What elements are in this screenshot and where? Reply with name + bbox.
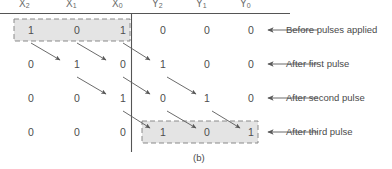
table-cell: 1 xyxy=(244,126,258,138)
table-cell: 1 xyxy=(70,58,84,70)
shift-register-figure: X2 X1 X0 Y2 Y1 Y0 xyxy=(0,0,392,169)
table-cell: 0 xyxy=(116,126,130,138)
table-cell: 1 xyxy=(156,58,170,70)
row-label-after-first-pulse: After first pulse xyxy=(286,58,349,69)
row-label-after-third-pulse: After third pulse xyxy=(286,126,353,137)
table-cell: 0 xyxy=(244,92,258,104)
table-cell: 0 xyxy=(70,126,84,138)
table-cell: 0 xyxy=(70,24,84,36)
table-cell: 0 xyxy=(70,92,84,104)
table-cell: 0 xyxy=(244,24,258,36)
table-cell: 0 xyxy=(156,24,170,36)
table-cell: 0 xyxy=(200,58,214,70)
row-label-before-pulses: Before pulses applied xyxy=(286,24,377,35)
table-cell: 0 xyxy=(200,126,214,138)
table-cell: 1 xyxy=(156,126,170,138)
table-cell: 1 xyxy=(116,24,130,36)
table-cell: 1 xyxy=(200,92,214,104)
table-cell: 0 xyxy=(244,58,258,70)
table-cell: 0 xyxy=(24,92,38,104)
table-cell: 1 xyxy=(24,24,38,36)
row-label-after-second-pulse: After second pulse xyxy=(286,92,365,103)
shift-arrows-pulse-1 xyxy=(31,43,150,60)
table-cell: 0 xyxy=(24,58,38,70)
shift-arrows-pulse-2 xyxy=(77,77,196,94)
table-cell: 0 xyxy=(156,92,170,104)
table-cell: 1 xyxy=(116,92,130,104)
table-cell: 0 xyxy=(116,58,130,70)
table-cell: 0 xyxy=(24,126,38,138)
figure-caption: (b) xyxy=(193,152,205,163)
table-cell: 0 xyxy=(200,24,214,36)
